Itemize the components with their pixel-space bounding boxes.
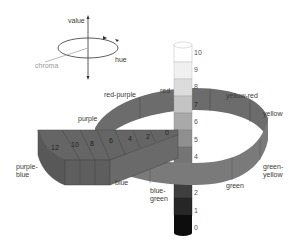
value-tick-8: 8: [194, 83, 198, 91]
hue-label-green: green: [226, 182, 244, 190]
chroma-tick-8: 8: [90, 140, 94, 148]
hue-label-blue: blue: [115, 179, 128, 187]
axis-label-value: value: [68, 17, 85, 25]
hue-label-green-yellow: green-yellow: [263, 163, 293, 179]
axis-label-hue: hue: [115, 56, 127, 64]
chroma-tick-12: 12: [51, 144, 59, 152]
chroma-tick-0: 0: [165, 129, 169, 137]
value-tick-9: 9: [194, 66, 198, 74]
value-tick-4: 4: [194, 153, 198, 161]
hue-label-red: red: [160, 87, 170, 95]
hue-label-purple: purple: [78, 115, 97, 123]
value-tick-5: 5: [194, 136, 198, 144]
chroma-tick-10: 10: [71, 141, 79, 149]
hue-label-purple-blue: purple-blue: [16, 163, 42, 179]
value-tick-1: 1: [194, 207, 198, 215]
value-tick-6: 6: [194, 118, 198, 126]
hue-label-blue-green: blue-green: [150, 187, 172, 203]
value-tick-7: 7: [194, 101, 198, 109]
hue-label-yellow-red: yellow-red: [226, 92, 258, 100]
value-tick-2: 2: [194, 189, 198, 197]
chroma-tick-4: 4: [128, 135, 132, 143]
munsell-diagram: [0, 0, 299, 250]
value-tick-10: 10: [194, 49, 202, 57]
hue-label-yellow: yellow: [263, 110, 282, 118]
chroma-tick-2: 2: [146, 133, 150, 141]
axis-label-chroma: chroma: [35, 62, 58, 70]
hue-label-red-purple: red-purple: [104, 91, 136, 99]
value-tick-0: 0: [194, 224, 198, 232]
chroma-tick-6: 6: [109, 137, 113, 145]
